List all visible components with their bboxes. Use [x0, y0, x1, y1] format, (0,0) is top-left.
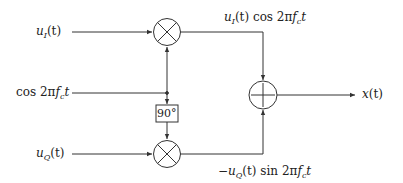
output-label: x(t) — [362, 87, 383, 101]
phase-shift-label: 90° — [157, 107, 177, 120]
carrier-input-label: cos 2πfct — [16, 85, 69, 101]
lower-branch-line — [181, 110, 264, 154]
upper-branch-line — [181, 32, 264, 80]
lower-branch-label: −uQ(t) sin 2πfct — [218, 164, 311, 180]
upper-branch-label: uI(t) cos 2πfct — [224, 10, 306, 26]
quadrature-input-label: uQ(t) — [36, 146, 64, 162]
in-phase-input-label: uI(t) — [36, 24, 61, 40]
